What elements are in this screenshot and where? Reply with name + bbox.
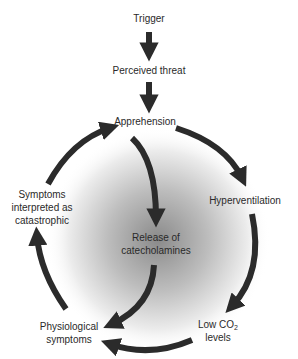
node-label: catecholamines bbox=[121, 244, 190, 257]
node-label: Low CO2 bbox=[198, 318, 238, 331]
node-hyperventilation: Hyperventilation bbox=[209, 194, 281, 207]
node-label: symptoms bbox=[40, 333, 98, 346]
anxiety-cycle-diagram: Trigger Perceived threat Apprehension Hy… bbox=[0, 0, 298, 359]
node-label: Physiological bbox=[40, 320, 98, 333]
node-label: interpreted as bbox=[11, 201, 72, 214]
diagram-graphics bbox=[0, 0, 298, 359]
node-symptoms-interpreted: Symptoms interpreted as catastrophic bbox=[11, 188, 72, 227]
node-label: Symptoms bbox=[11, 188, 72, 201]
node-apprehension: Apprehension bbox=[114, 115, 176, 128]
node-physiological-symptoms: Physiological symptoms bbox=[40, 320, 98, 346]
co2-prefix: Low CO bbox=[198, 319, 234, 330]
node-label: levels bbox=[198, 331, 238, 344]
node-label: Apprehension bbox=[114, 115, 176, 128]
node-label: Hyperventilation bbox=[209, 194, 281, 207]
node-perceived-threat: Perceived threat bbox=[113, 64, 186, 77]
node-trigger: Trigger bbox=[133, 12, 164, 25]
node-low-co2: Low CO2 levels bbox=[198, 318, 238, 344]
co2-subscript: 2 bbox=[234, 324, 238, 331]
node-release-catecholamines: Release of catecholamines bbox=[121, 231, 190, 257]
node-label: catastrophic bbox=[11, 214, 72, 227]
node-label: Perceived threat bbox=[113, 64, 186, 77]
node-label: Release of bbox=[121, 231, 190, 244]
node-label: Trigger bbox=[133, 12, 164, 25]
